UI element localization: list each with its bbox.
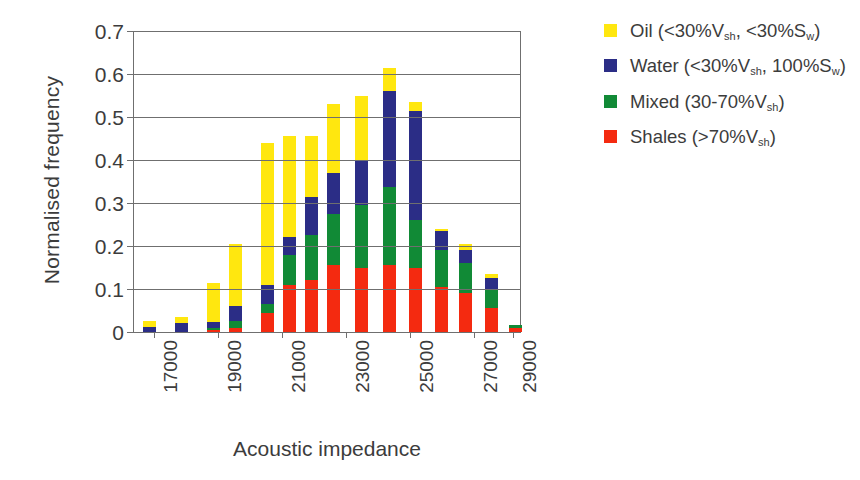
stacked-bar: [435, 229, 448, 332]
bar-segment-water: [435, 231, 448, 250]
bar-segment-water: [229, 306, 242, 321]
x-axis-tick-label: 17000: [161, 340, 180, 393]
plot-area: [133, 31, 521, 332]
x-axis-tick-label: 19000: [225, 340, 244, 393]
bar-segment-shales: [485, 308, 498, 332]
legend-label-oil: Oil (<30%Vsh, <30%Sw): [630, 20, 820, 41]
legend-item-shales[interactable]: Shales (>70%Vsh): [604, 126, 860, 147]
gridline: [133, 160, 521, 161]
gridline: [133, 74, 521, 75]
gridline: [133, 289, 521, 290]
gridline: [133, 246, 521, 247]
y-axis-tick-mark: [127, 160, 134, 161]
stacked-bar: [207, 283, 220, 332]
bar-segment-mixed: [327, 214, 340, 266]
y-axis-tick-label: 0: [112, 322, 124, 343]
legend-item-water[interactable]: Water (<30%Vsh, 100%Sw): [604, 55, 860, 76]
x-axis-tick-labels: 17000190002100023000250002700029000: [133, 332, 521, 432]
bar-segment-water: [459, 250, 472, 263]
bar-segment-mixed: [261, 304, 274, 313]
stacked-bar: [305, 136, 318, 332]
y-axis-tick-mark: [127, 117, 134, 118]
stacked-bar: [459, 244, 472, 332]
x-axis-tick-mark: [154, 332, 155, 338]
bar-segment-mixed: [383, 187, 396, 265]
legend-swatch-mixed: [604, 95, 617, 108]
bar-segment-mixed: [409, 220, 422, 267]
bar-segment-mixed: [485, 289, 498, 308]
y-axis-tick-label: 0.1: [95, 279, 124, 300]
y-axis-tick-label: 0.3: [95, 193, 124, 214]
y-axis-tick-label: 0.5: [95, 107, 124, 128]
y-axis-tick-labels: 0.70.60.50.40.30.20.10: [62, 0, 124, 480]
bar-group: [133, 31, 521, 332]
stacked-bar: [283, 136, 296, 332]
x-axis-tick-mark: [346, 332, 347, 338]
bar-segment-oil: [409, 102, 422, 111]
bar-segment-oil: [383, 68, 396, 92]
bar-segment-shales: [283, 285, 296, 332]
y-axis-tick-mark: [127, 31, 134, 32]
bar-segment-oil: [305, 136, 318, 196]
stacked-bar: [261, 143, 274, 332]
bar-segment-mixed: [435, 250, 448, 287]
stacked-bar: [485, 274, 498, 332]
stacked-bar: [409, 102, 422, 332]
x-axis-tick-mark: [410, 332, 411, 338]
gridline: [133, 31, 521, 32]
chart-figure: Normalised frequency 0.70.60.50.40.30.20…: [0, 0, 860, 480]
stacked-bar: [175, 317, 188, 332]
bar-segment-mixed: [305, 235, 318, 280]
bar-segment-shales: [261, 313, 274, 332]
y-axis-tick-mark: [127, 203, 134, 204]
bar-segment-oil: [261, 143, 274, 285]
y-axis-tick-label: 0.4: [95, 150, 124, 171]
bar-segment-oil: [283, 136, 296, 237]
bar-segment-water: [175, 323, 188, 332]
stacked-bar: [383, 68, 396, 332]
x-axis-tick-label: 25000: [417, 340, 436, 393]
bar-segment-shales: [383, 265, 396, 332]
bar-segment-water: [383, 91, 396, 187]
stacked-bar: [143, 321, 156, 332]
bar-segment-shales: [355, 268, 368, 333]
bar-segment-shales: [327, 265, 340, 332]
legend-swatch-water: [604, 59, 617, 72]
bar-segment-oil: [355, 96, 368, 161]
x-axis-tick-label: 21000: [289, 340, 308, 393]
y-axis-tick-mark: [127, 74, 134, 75]
x-axis-tick-label: 27000: [481, 340, 500, 393]
legend-swatch-oil: [604, 24, 617, 37]
y-axis-tick-label: 0.2: [95, 236, 124, 257]
y-axis-title: Normalised frequency: [40, 20, 64, 340]
y-axis-tick-label: 0.7: [95, 21, 124, 42]
x-axis-tick-mark: [218, 332, 219, 338]
bar-segment-water: [327, 173, 340, 214]
bar-segment-mixed: [355, 205, 368, 267]
legend-item-oil[interactable]: Oil (<30%Vsh, <30%Sw): [604, 20, 860, 41]
stacked-bar: [355, 96, 368, 332]
stacked-bar: [509, 325, 522, 332]
bar-segment-shales: [409, 268, 422, 333]
bar-segment-water: [261, 285, 274, 304]
bar-segment-shales: [459, 293, 472, 332]
x-axis-tick-label: 29000: [520, 340, 539, 393]
y-axis-tick-mark: [127, 246, 134, 247]
bar-segment-water: [355, 160, 368, 205]
legend-label-mixed: Mixed (30-70%Vsh): [630, 91, 785, 112]
legend-label-water: Water (<30%Vsh, 100%Sw): [630, 55, 846, 76]
bar-segment-oil: [327, 104, 340, 173]
y-axis-tick-mark: [127, 289, 134, 290]
gridline: [133, 117, 521, 118]
x-axis-title: Acoustic impedance: [133, 437, 521, 461]
gridline: [133, 203, 521, 204]
legend-item-mixed[interactable]: Mixed (30-70%Vsh): [604, 91, 860, 112]
stacked-bar: [229, 244, 242, 332]
legend-label-shales: Shales (>70%Vsh): [630, 126, 776, 147]
chart-legend: Oil (<30%Vsh, <30%Sw)Water (<30%Vsh, 100…: [604, 20, 860, 161]
x-axis-tick-label: 23000: [353, 340, 372, 393]
bar-segment-mixed: [283, 255, 296, 285]
x-axis-tick-mark: [513, 332, 514, 338]
x-axis-tick-mark: [474, 332, 475, 338]
y-axis-tick-label: 0.6: [95, 64, 124, 85]
